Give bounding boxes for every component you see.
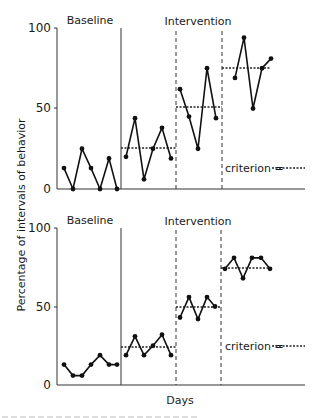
data-point xyxy=(80,146,85,151)
data-point xyxy=(223,266,228,271)
x-axis-label: Days xyxy=(166,394,194,407)
top-panel: 100 50 0 Baseline Intervention criterion… xyxy=(28,14,305,196)
data-point xyxy=(115,362,120,367)
data-point xyxy=(107,156,112,161)
data-point xyxy=(142,353,147,358)
data-point xyxy=(251,106,256,111)
bottom-criterion-legend: criterion = xyxy=(225,340,284,353)
data-line xyxy=(180,68,216,149)
changing-criterion-chart: 100 50 0 Baseline Intervention criterion… xyxy=(0,0,325,418)
data-point xyxy=(205,295,210,300)
y-axis-label: Percentage of intervals of behavior xyxy=(15,118,28,311)
data-line xyxy=(180,297,215,319)
data-point xyxy=(269,56,274,61)
data-point xyxy=(250,255,255,260)
top-criterion-legend: criterion = xyxy=(225,162,284,175)
data-point xyxy=(71,373,76,378)
bottom-tick-50: 50 xyxy=(36,300,51,314)
top-intervention-label: Intervention xyxy=(164,15,231,28)
data-point xyxy=(214,116,219,121)
data-point xyxy=(160,125,165,130)
bottom-panel: 100 50 0 Baseline Intervention criterion… xyxy=(28,214,305,407)
data-point xyxy=(107,362,112,367)
data-point xyxy=(196,146,201,151)
data-point xyxy=(71,187,76,192)
data-point xyxy=(133,334,138,339)
data-point xyxy=(124,353,129,358)
data-point xyxy=(178,87,183,92)
data-point xyxy=(241,276,246,281)
data-point xyxy=(89,166,94,171)
data-point xyxy=(151,343,156,348)
data-point xyxy=(196,317,201,322)
top-tick-0: 0 xyxy=(43,182,51,196)
data-point xyxy=(151,146,156,151)
data-point xyxy=(187,295,192,300)
data-point xyxy=(205,66,210,71)
data-point xyxy=(178,315,183,320)
data-point xyxy=(259,255,264,260)
data-point xyxy=(160,332,165,337)
data-line xyxy=(235,38,271,109)
data-point xyxy=(242,35,247,40)
bottom-data-series xyxy=(62,255,273,378)
data-point xyxy=(89,362,94,367)
data-line xyxy=(126,335,171,355)
bottom-tick-0: 0 xyxy=(43,378,51,392)
top-tick-100: 100 xyxy=(28,21,51,35)
data-point xyxy=(62,166,67,171)
data-point xyxy=(124,154,129,159)
data-point xyxy=(98,187,103,192)
bottom-tick-100: 100 xyxy=(28,221,51,235)
data-point xyxy=(213,304,218,309)
data-point xyxy=(80,373,85,378)
data-point xyxy=(133,116,138,121)
bottom-baseline-label: Baseline xyxy=(67,214,114,227)
data-point xyxy=(142,177,147,182)
data-point xyxy=(98,353,103,358)
data-point xyxy=(169,353,174,358)
data-point xyxy=(260,66,265,71)
data-point xyxy=(169,156,174,161)
bottom-intervention-label: Intervention xyxy=(164,215,231,228)
data-point xyxy=(232,255,237,260)
data-point xyxy=(268,266,273,271)
data-point xyxy=(62,362,67,367)
top-tick-50: 50 xyxy=(36,101,51,115)
data-point xyxy=(233,76,238,81)
top-baseline-label: Baseline xyxy=(67,14,114,27)
data-point xyxy=(115,187,120,192)
data-point xyxy=(187,114,192,119)
